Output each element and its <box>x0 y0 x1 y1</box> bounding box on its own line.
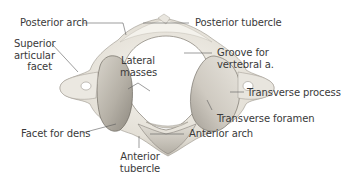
label-posterior-arch: Posterior arch <box>20 17 88 29</box>
label-line: Anterior <box>118 151 162 163</box>
left-transverse-process <box>60 72 98 99</box>
label-transverse-foramen: Transverse foramen <box>217 113 314 125</box>
label-groove-for-vertebral-artery: Groove for vertebral a. <box>217 47 274 70</box>
label-facet-for-dens: Facet for dens <box>21 128 90 140</box>
label-line: vertebral a. <box>217 59 274 71</box>
label-line: Groove for <box>217 47 274 59</box>
label-lateral-masses: Lateral masses <box>120 55 156 78</box>
label-line: Superior <box>14 38 52 50</box>
left-transverse-foramen <box>81 82 91 90</box>
label-line: masses <box>120 67 156 79</box>
label-line: facet <box>14 61 52 73</box>
label-anterior-arch: Anterior arch <box>189 128 253 140</box>
label-transverse-process: Transverse process <box>247 87 341 99</box>
label-anterior-tubercle: Anterior tubercle <box>118 151 162 174</box>
label-line: tubercle <box>118 163 162 175</box>
label-posterior-tubercle: Posterior tubercle <box>195 17 282 29</box>
label-line: articular <box>14 50 52 62</box>
label-superior-articular-facet: Superior articular facet <box>14 38 52 73</box>
label-line: Lateral <box>120 55 156 67</box>
